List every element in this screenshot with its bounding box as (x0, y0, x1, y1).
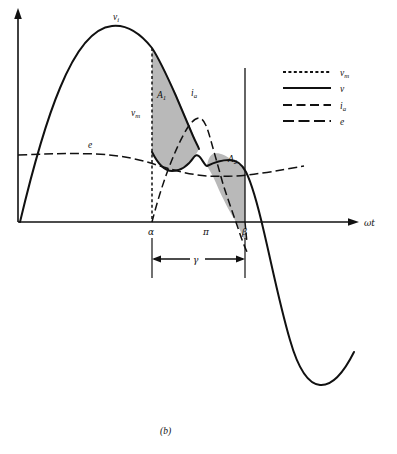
svg-text:A1: A1 (156, 90, 166, 101)
x-tick-labels: α π β (148, 227, 247, 237)
legend-label-vm-sub: m (344, 72, 349, 79)
legend-label-ia-sub: a (343, 105, 347, 112)
legend-label-v-base: v (340, 84, 345, 94)
svg-text:vm: vm (131, 108, 140, 119)
label-v-m-sub: m (135, 112, 140, 119)
x-tick-label-beta: β (241, 227, 247, 237)
x-tick-label-alpha: α (148, 227, 154, 237)
label-gamma-text: γ (193, 255, 199, 265)
legend-label-e: e (340, 117, 344, 127)
label-v-i: vi (113, 12, 119, 23)
svg-text:vi: vi (113, 12, 119, 23)
svg-text:A2: A2 (227, 154, 238, 165)
figure-container: vi vm A1 ia A2 e (0, 0, 397, 454)
x-axis-label-text: ωt (364, 218, 375, 228)
label-i-a: ia (191, 88, 198, 99)
legend-label-v: v (340, 84, 345, 94)
x-tick-label-pi: π (202, 227, 210, 237)
label-e-base: e (88, 140, 92, 150)
label-e: e (88, 140, 92, 150)
svg-text:ia: ia (191, 88, 198, 99)
label-area-2-sub: 2 (234, 158, 238, 165)
figure-caption: (b) (160, 426, 171, 437)
label-v-m: vm (131, 108, 140, 119)
legend-label-vm: vm (340, 68, 349, 79)
label-v-i-sub: i (117, 16, 119, 23)
legend-labels: vm v ia e (340, 68, 349, 127)
label-i-a-sub: a (194, 92, 198, 99)
figure-caption-text: (b) (160, 426, 171, 437)
label-area-1-sub: 1 (163, 94, 166, 101)
label-gamma: γ (193, 255, 199, 265)
legend-label-ia: ia (340, 101, 347, 112)
label-overlay: vi vm A1 ia A2 e (0, 0, 397, 454)
x-axis-label: ωt (364, 218, 375, 228)
label-area-1: A1 (156, 90, 166, 101)
legend-label-e-base: e (340, 117, 344, 127)
label-area-2: A2 (227, 154, 238, 165)
